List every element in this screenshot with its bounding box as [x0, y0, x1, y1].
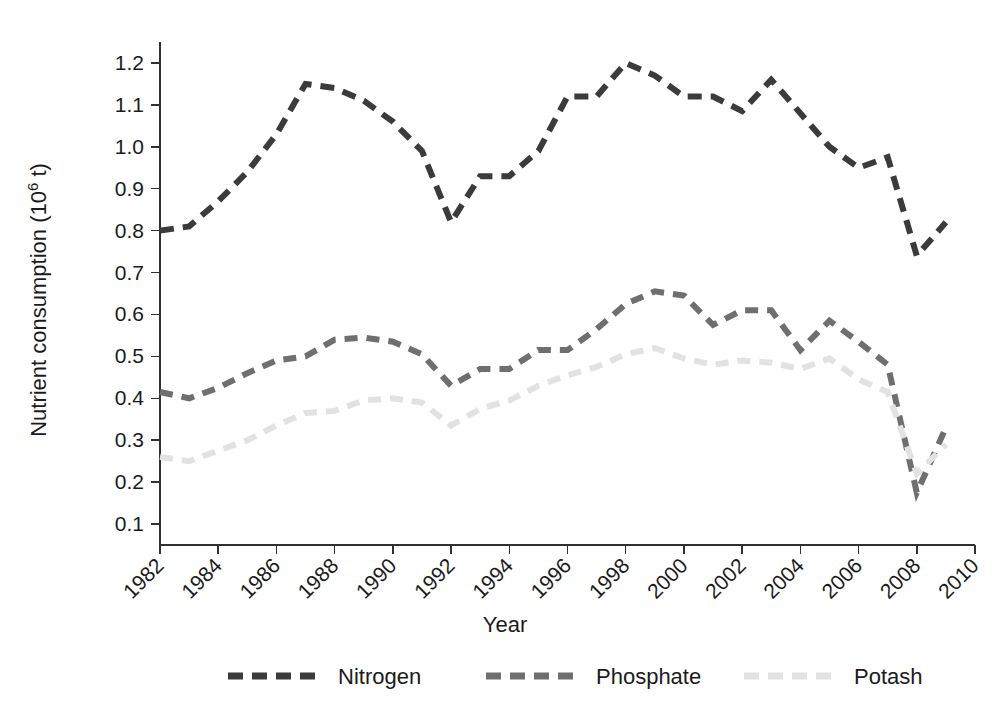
series-line-phosphate	[160, 291, 946, 492]
y-axis-title: Nutrient consumption (106 t)	[24, 163, 51, 437]
x-tick-label: 2002	[701, 554, 750, 603]
y-tick-label: 0.3	[115, 428, 144, 451]
x-tick-label: 1984	[177, 553, 227, 603]
y-axis-title-main: Nutrient consumption (10	[26, 191, 51, 437]
x-tick-label: 2008	[875, 554, 924, 603]
x-tick-label: 1982	[119, 554, 168, 603]
x-axis-title: Year	[483, 612, 527, 637]
data-series-group	[160, 63, 946, 493]
y-tick-label: 1.2	[115, 51, 144, 74]
y-tick-label: 1.1	[115, 93, 144, 116]
chart-figure: Nutrient consumption (106 t) 0.10.20.30.…	[0, 0, 1006, 728]
y-axis-title-exponent: 6	[24, 183, 41, 191]
x-tick-label: 1992	[410, 554, 459, 603]
x-tick-label: 1996	[526, 554, 575, 603]
x-tick-label: 2010	[934, 554, 983, 603]
y-tick-label: 0.7	[115, 261, 144, 284]
x-tick-label: 1998	[584, 554, 633, 603]
legend-label-potash: Potash	[854, 664, 923, 689]
x-tick-marks	[160, 545, 975, 554]
y-tick-label: 0.8	[115, 219, 144, 242]
y-tick-label: 0.6	[115, 302, 144, 325]
axes	[160, 42, 975, 545]
series-line-potash	[160, 348, 946, 474]
legend-label-phosphate: Phosphate	[596, 664, 701, 689]
chart-legend: NitrogenPhosphatePotash	[228, 664, 923, 689]
x-tick-label: 1990	[351, 554, 400, 603]
x-tick-label: 2006	[817, 554, 866, 603]
y-tick-label: 1.0	[115, 135, 144, 158]
series-line-nitrogen	[160, 63, 946, 256]
nutrient-consumption-line-chart: Nutrient consumption (106 t) 0.10.20.30.…	[0, 0, 1006, 728]
y-tick-label: 0.9	[115, 177, 144, 200]
x-tick-label: 1988	[293, 554, 342, 603]
y-tick-label: 0.4	[115, 386, 145, 409]
y-axis-title-suffix: t)	[26, 163, 51, 183]
y-tick-label: 0.2	[115, 470, 144, 493]
legend-label-nitrogen: Nitrogen	[338, 664, 421, 689]
y-tick-labels: 0.10.20.30.40.50.60.70.80.91.01.11.2	[115, 51, 145, 535]
x-tick-label: 2000	[642, 554, 691, 603]
y-tick-label: 0.5	[115, 344, 144, 367]
y-tick-label: 0.1	[115, 512, 144, 535]
y-tick-marks	[151, 63, 160, 524]
x-tick-label: 1994	[468, 553, 518, 603]
x-tick-label: 2004	[759, 553, 809, 603]
x-tick-label: 1986	[235, 554, 284, 603]
x-tick-labels: 1982198419861988199019921994199619982000…	[119, 553, 983, 603]
svg-text:Nutrient consumption (106 t): Nutrient consumption (106 t)	[24, 163, 51, 437]
